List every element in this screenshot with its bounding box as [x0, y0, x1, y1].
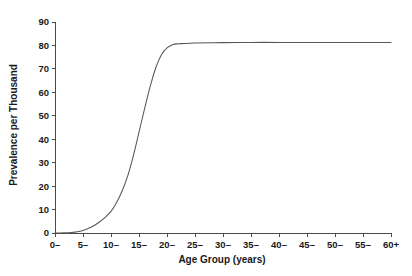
- x-tick-label: 20–: [159, 239, 175, 250]
- x-tick-label: 45–: [299, 239, 315, 250]
- y-tick-label: 40: [38, 134, 49, 145]
- y-tick-label: 10: [38, 204, 49, 215]
- y-tick-label: 50: [38, 110, 49, 121]
- x-tick-label: 0–: [50, 239, 61, 250]
- x-axis-title: Age Group (years): [178, 254, 265, 265]
- y-tick-label: 30: [38, 157, 49, 168]
- x-tick-label: 5–: [78, 239, 89, 250]
- x-tick-label: 60+: [383, 239, 400, 250]
- data-curve: [55, 42, 391, 233]
- x-axis: 0–5–10–15–20–25–30–35–40–45–50–55–60+: [50, 233, 400, 250]
- y-tick-label: 70: [38, 63, 49, 74]
- y-tick-label: 90: [38, 16, 49, 27]
- y-tick-label: 60: [38, 87, 49, 98]
- x-tick-label: 35–: [243, 239, 259, 250]
- x-tick-label: 25–: [187, 239, 203, 250]
- chart-canvas: 0102030405060708090 0–5–10–15–20–25–30–3…: [0, 0, 412, 276]
- x-tick-label: 40–: [271, 239, 287, 250]
- x-tick-label: 30–: [215, 239, 231, 250]
- x-tick-label: 15–: [131, 239, 147, 250]
- y-tick-label: 0: [44, 227, 49, 238]
- data-series-group: [55, 42, 391, 233]
- y-axis: 0102030405060708090: [38, 16, 55, 238]
- y-axis-title: Prevalence per Thousand: [8, 64, 19, 186]
- x-tick-label: 50–: [327, 239, 343, 250]
- x-tick-label: 55–: [355, 239, 371, 250]
- y-tick-label: 80: [38, 40, 49, 51]
- y-tick-label: 20: [38, 181, 49, 192]
- x-tick-label: 10–: [103, 239, 119, 250]
- chart-container: 0102030405060708090 0–5–10–15–20–25–30–3…: [0, 0, 412, 276]
